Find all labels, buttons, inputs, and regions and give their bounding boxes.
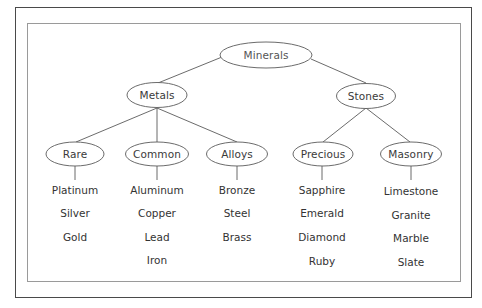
edge-minerals-stones (311, 59, 366, 83)
leaf-item: Marble (393, 232, 429, 244)
leaf-item: Aluminum (130, 184, 183, 196)
leaf-item: Lead (144, 231, 169, 243)
leaf-item: Iron (147, 254, 167, 266)
leaf-item: Emerald (300, 207, 344, 219)
edge-metals-alloys (157, 108, 237, 142)
leaf-item: Brass (223, 231, 252, 243)
leaf-item: Bronze (219, 184, 255, 196)
edge-stones-masonry (366, 108, 410, 142)
node-metals: Metals (139, 89, 174, 101)
leaf-item: Limestone (384, 185, 439, 197)
leaf-item: Copper (138, 207, 176, 219)
node-masonry: Masonry (388, 148, 433, 160)
edge-metals-rare (76, 108, 157, 142)
node-common: Common (133, 148, 181, 160)
node-rare: Rare (63, 148, 87, 160)
leaf-item: Diamond (298, 231, 345, 243)
node-minerals: Minerals (243, 49, 288, 61)
leaf-item: Silver (60, 207, 90, 219)
leaf-item: Slate (398, 256, 425, 268)
leaf-item: Sapphire (299, 184, 346, 196)
leaf-item: Granite (391, 209, 430, 221)
edge-stones-precious (323, 108, 366, 142)
node-precious: Precious (301, 148, 346, 160)
leaf-item: Platinum (52, 184, 98, 196)
edge-minerals-metals (158, 57, 222, 83)
leaf-item: Ruby (309, 255, 335, 267)
node-alloys: Alloys (221, 148, 253, 160)
leaf-item: Steel (224, 207, 251, 219)
node-stones: Stones (348, 90, 384, 102)
leaf-item: Gold (63, 231, 87, 243)
